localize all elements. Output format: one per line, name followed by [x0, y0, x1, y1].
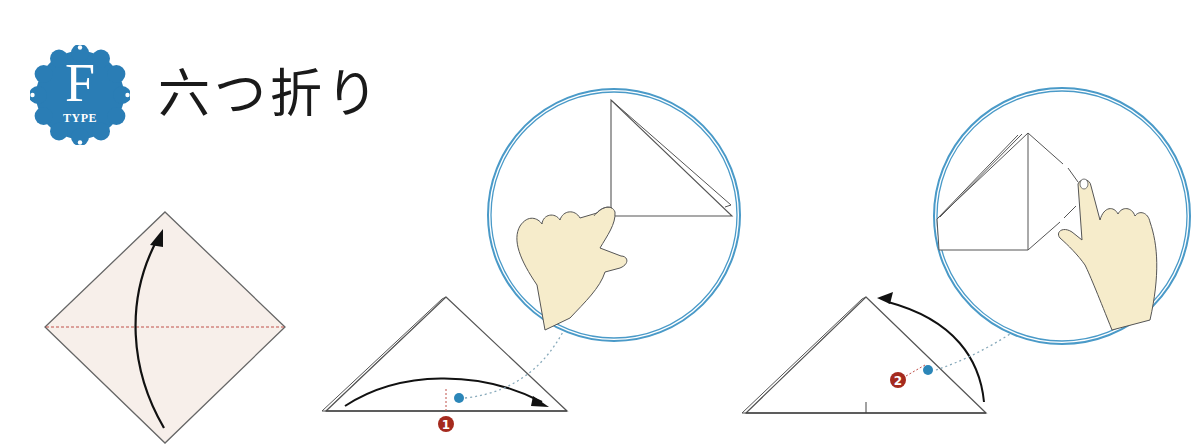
- svg-text:2: 2: [894, 374, 902, 388]
- step-2-triangle: 2: [742, 292, 1010, 413]
- square-diamond-paper: [45, 212, 285, 443]
- svg-text:1: 1: [442, 418, 450, 432]
- origami-instruction-page: 1: [0, 0, 1203, 447]
- badge-subtitle: TYPE: [30, 111, 130, 126]
- pointer-dot-icon: [454, 393, 464, 403]
- type-badge: F TYPE: [30, 45, 130, 145]
- page-title: 六つ折り: [158, 59, 382, 129]
- step-1-triangle: 1: [322, 297, 568, 432]
- badge-letter: F: [30, 53, 130, 113]
- step-badge-2: 2: [890, 372, 906, 388]
- pointer-dot-icon: [923, 365, 933, 375]
- detail-zoom-circle-1: [488, 89, 740, 341]
- detail-zoom-circle-2: [934, 88, 1190, 344]
- step-badge-1: 1: [438, 416, 454, 432]
